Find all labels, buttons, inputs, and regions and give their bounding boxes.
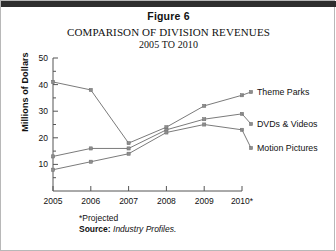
y-tick-label-40: 40 — [39, 80, 49, 90]
data-point-marker — [89, 160, 92, 163]
series-lines-group — [51, 80, 243, 171]
data-point-marker — [203, 123, 206, 126]
legend-marker-2 — [249, 146, 252, 149]
y-axis-tick-labels: 1020304050 — [39, 53, 49, 169]
data-point-marker — [51, 80, 54, 83]
y-tick-label-50: 50 — [39, 53, 49, 63]
data-point-marker — [203, 104, 206, 107]
legend-label-motion-pictures: Motion Pictures — [257, 143, 318, 153]
y-tick-label-10: 10 — [39, 159, 49, 169]
data-point-marker — [89, 88, 92, 91]
footnote-block: *Projected Source: Industry Profiles. — [79, 213, 176, 235]
legend-leader-line-2 — [242, 130, 251, 148]
data-point-marker — [203, 118, 206, 121]
data-point-marker — [51, 168, 54, 171]
legend-label-theme-parks: Theme Parks — [257, 87, 310, 97]
data-point-marker — [165, 131, 168, 134]
source-label: Source: — [79, 224, 111, 234]
x-axis-tick-labels: 200520062007200820092010* — [44, 196, 254, 206]
y-tick-label-20: 20 — [39, 133, 49, 143]
series-line-0 — [53, 82, 242, 143]
projected-note: *Projected — [79, 213, 176, 224]
legend-marker-0 — [249, 90, 252, 93]
x-axis-ticks — [53, 186, 242, 191]
source-line: Source: Industry Profiles. — [79, 224, 176, 235]
data-point-marker — [89, 147, 92, 150]
data-point-marker — [127, 142, 130, 145]
data-point-marker — [51, 155, 54, 158]
x-tick-label-2007: 2007 — [119, 196, 138, 206]
x-tick-label-2006: 2006 — [81, 196, 100, 206]
legend-label-dvds-videos: DVDs & Videos — [257, 119, 318, 129]
y-axis-ticks — [53, 58, 58, 178]
chart-legend: Theme ParksDVDs & VideosMotion Pictures — [242, 87, 318, 153]
series-line-2 — [53, 125, 242, 170]
x-tick-label-2009: 2009 — [195, 196, 214, 206]
data-point-marker — [127, 147, 130, 150]
x-tick-label-2010*: 2010* — [231, 196, 254, 206]
legend-marker-1 — [249, 122, 252, 125]
source-name: Industry Profiles. — [113, 224, 176, 234]
x-tick-label-2008: 2008 — [157, 196, 176, 206]
data-point-marker — [127, 152, 130, 155]
y-tick-label-30: 30 — [39, 106, 49, 116]
x-tick-label-2005: 2005 — [44, 196, 63, 206]
